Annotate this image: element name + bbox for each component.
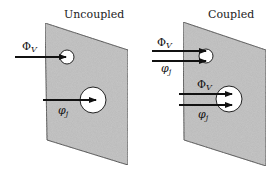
coupled-title: Coupled bbox=[208, 8, 254, 21]
label-phi-v: ΦV bbox=[22, 40, 38, 54]
uncoupled-title: Uncoupled bbox=[64, 8, 124, 21]
uncoupled-panel: Uncoupled ΦV φj bbox=[15, 8, 128, 165]
diagram-canvas: Uncoupled ΦV φj Coupled ΦV φj ΦV φj bbox=[0, 0, 280, 174]
label-phi-v-small: ΦV bbox=[157, 36, 173, 50]
label-phi-j-small: φj bbox=[161, 62, 172, 76]
coupled-panel: Coupled ΦV φj ΦV φj bbox=[152, 8, 266, 166]
large-pore bbox=[216, 86, 242, 112]
